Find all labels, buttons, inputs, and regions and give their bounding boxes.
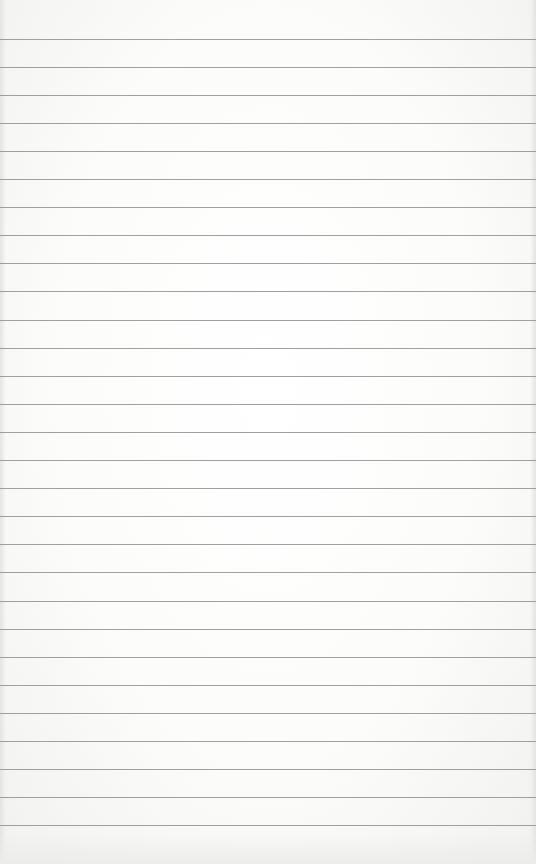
ruled-line [0,39,536,40]
ruled-line [0,713,536,714]
ruled-line [0,320,536,321]
ruled-line [0,404,536,405]
ruled-line [0,601,536,602]
ruled-line [0,263,536,264]
ruled-line [0,797,536,798]
ruled-line [0,741,536,742]
lined-paper-sheet [0,0,536,864]
ruled-line [0,629,536,630]
ruled-line [0,123,536,124]
paper-edge-bottom [0,834,536,864]
ruled-line [0,488,536,489]
ruled-line [0,151,536,152]
ruled-line [0,657,536,658]
ruled-line [0,235,536,236]
ruled-line [0,544,536,545]
ruled-line [0,291,536,292]
ruled-line [0,207,536,208]
ruled-line [0,67,536,68]
ruled-line [0,516,536,517]
ruled-line [0,95,536,96]
ruled-line [0,460,536,461]
ruled-line [0,432,536,433]
ruled-line [0,572,536,573]
ruled-line [0,348,536,349]
ruled-line [0,179,536,180]
ruled-line [0,769,536,770]
ruled-line [0,825,536,826]
ruled-line [0,376,536,377]
ruled-line [0,685,536,686]
